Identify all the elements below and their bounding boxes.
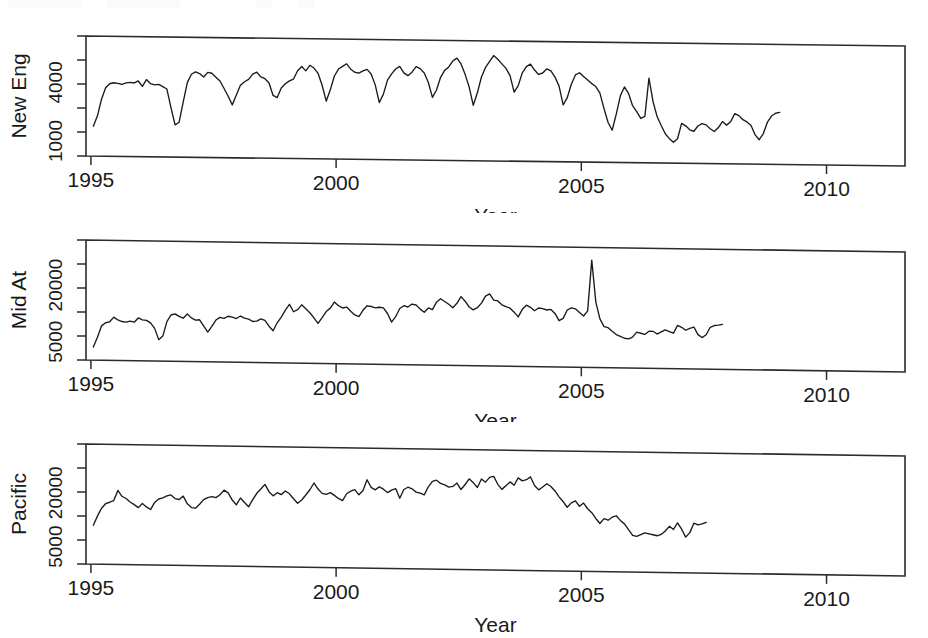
x-tick-label: 2005: [558, 583, 605, 606]
y-axis-label: Mid At: [7, 271, 30, 330]
plot-pacific: 500020000Pacific1995200020052010Year: [0, 426, 928, 636]
plot-mid-at: 500020000Mid At1995200020052010Year: [0, 222, 928, 422]
series-line: [93, 476, 706, 537]
y-tick-label: 5000: [45, 321, 66, 363]
x-axis-label: Year: [474, 613, 516, 636]
panel-new-eng: 10004000New Eng1995200020052010Year: [0, 18, 928, 213]
x-tick-label: 1995: [68, 576, 115, 599]
plot-frame: [86, 240, 905, 372]
y-tick-label: 20000: [45, 466, 66, 519]
y-axis-label: New Eng: [7, 53, 30, 138]
y-tick-label: 1000: [45, 120, 66, 162]
plot-frame: [86, 444, 905, 576]
x-tick-label: 2000: [313, 580, 360, 603]
x-tick-label: 2010: [803, 383, 850, 406]
x-tick-label: 2000: [313, 171, 360, 194]
x-tick-label: 1995: [68, 372, 115, 395]
x-tick-label: 2010: [803, 177, 850, 200]
plot-new-eng: 10004000New Eng1995200020052010Year: [0, 18, 928, 213]
x-tick-label: 2000: [313, 376, 360, 399]
figure-root: 10004000New Eng1995200020052010Year 5000…: [0, 0, 928, 638]
y-tick-label: 20000: [45, 259, 66, 312]
series-line: [93, 56, 779, 143]
x-axis-label: Year: [474, 204, 516, 213]
y-axis-label: Pacific: [7, 473, 30, 535]
y-tick-label: 4000: [45, 61, 66, 103]
y-tick-label: 5000: [45, 526, 66, 568]
series-line: [93, 260, 722, 347]
panel-pacific: 500020000Pacific1995200020052010Year: [0, 426, 928, 636]
panel-mid-at: 500020000Mid At1995200020052010Year: [0, 222, 928, 422]
x-tick-label: 1995: [68, 168, 115, 191]
x-tick-label: 2005: [558, 174, 605, 197]
scan-artifact-top: [8, 0, 338, 8]
x-axis-label: Year: [474, 409, 516, 422]
plot-frame: [86, 36, 905, 166]
x-tick-label: 2010: [803, 587, 850, 610]
x-tick-label: 2005: [558, 379, 605, 402]
